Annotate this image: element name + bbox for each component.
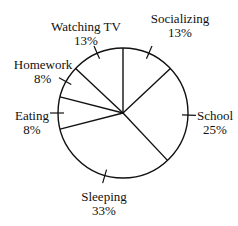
- label-watching-tv-pct: 13%: [46, 34, 126, 48]
- label-socializing: Socializing 13%: [140, 12, 220, 40]
- label-school: School 25%: [192, 109, 238, 137]
- label-socializing-name: Socializing: [140, 12, 220, 26]
- label-eating-pct: 8%: [8, 123, 56, 137]
- label-sleeping: Sleeping 33%: [72, 190, 136, 218]
- label-homework-pct: 8%: [8, 72, 78, 86]
- label-watching-tv: Watching TV 13%: [46, 20, 126, 48]
- label-school-name: School: [192, 109, 238, 123]
- label-sleeping-pct: 33%: [72, 204, 136, 218]
- label-homework-name: Homework: [8, 58, 78, 72]
- label-watching-tv-name: Watching TV: [46, 20, 126, 34]
- label-sleeping-name: Sleeping: [72, 190, 136, 204]
- label-homework: Homework 8%: [8, 58, 78, 86]
- label-school-pct: 25%: [192, 123, 238, 137]
- label-eating-name: Eating: [8, 109, 56, 123]
- label-eating: Eating 8%: [8, 109, 56, 137]
- label-socializing-pct: 13%: [140, 26, 220, 40]
